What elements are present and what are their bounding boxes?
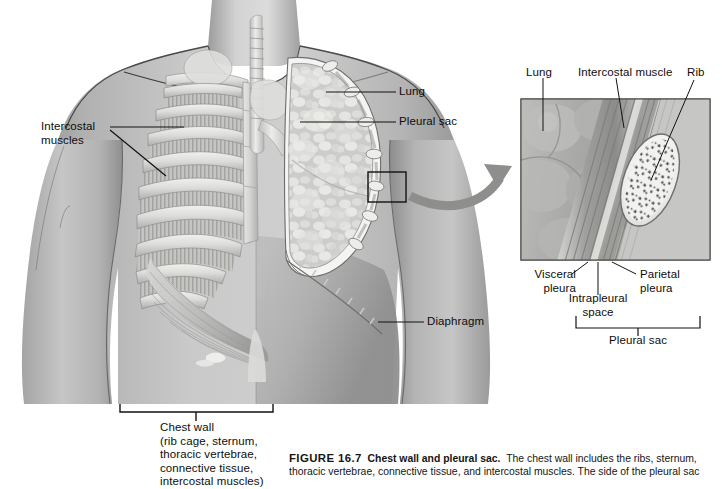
label-parietal-pleura: Parietal pleura: [640, 268, 680, 295]
label-pleural-sac-main: Pleural sac: [399, 115, 457, 129]
figure-title: Chest wall and pleural sac.: [368, 453, 501, 464]
inset-panel: [512, 95, 712, 266]
label-intrapleural-space: Intrapleural space: [552, 292, 644, 319]
label-chest-wall: Chest wall (rib cage, sternum, thoracic …: [160, 421, 264, 489]
label-lung-inset: Lung: [526, 66, 552, 80]
label-intercostal-muscle-inset: Intercostal muscle: [578, 66, 672, 80]
chest-wall-bracket: [120, 404, 273, 421]
label-pleural-sac-inset: Pleural sac: [592, 334, 684, 348]
inset-pleural-sac-bracket: [576, 316, 700, 336]
label-lung-main: Lung: [399, 85, 425, 99]
label-intercostal-muscles: Intercostal muscles: [41, 120, 95, 147]
figure-number: FIGURE 16.7: [289, 452, 362, 464]
label-rib-inset: Rib: [687, 66, 705, 80]
label-visceral-pleura: Visceral pleura: [509, 268, 576, 295]
label-diaphragm: Diaphragm: [427, 315, 484, 329]
figure-caption: FIGURE 16.7 Chest wall and pleural sac. …: [289, 452, 722, 480]
